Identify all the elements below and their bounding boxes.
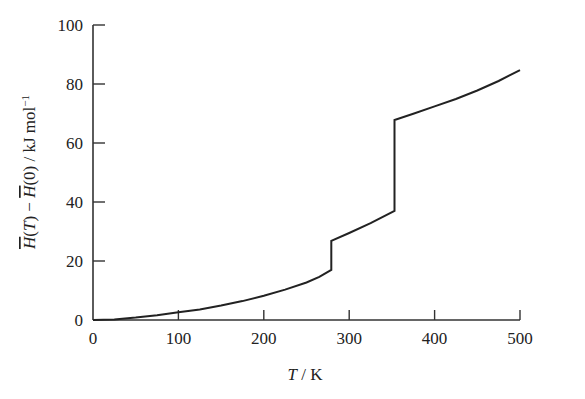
y-tick-label: 80: [66, 75, 83, 94]
x-tick-label: 0: [89, 329, 98, 348]
y-tick-label: 20: [66, 252, 83, 271]
svg-text:H(T) − H(0) / kJ mol−1: H(T) − H(0) / kJ mol−1: [19, 95, 39, 250]
y-tick-label: 60: [66, 134, 83, 153]
enthalpy-chart: 0100200300400500 020406080100 T / K H(T)…: [0, 0, 585, 399]
y-axis-ticks: 020406080100: [58, 16, 106, 330]
axes: [93, 25, 520, 320]
y-tick-label: 100: [58, 16, 84, 35]
x-tick-label: 500: [507, 329, 533, 348]
x-tick-label: 200: [251, 329, 277, 348]
y-tick-label: 40: [66, 193, 83, 212]
x-axis-label: T / K: [288, 365, 324, 384]
x-tick-label: 300: [336, 329, 362, 348]
y-axis-label: H(T) − H(0) / kJ mol−1: [19, 95, 39, 250]
enthalpy-curve: [93, 70, 520, 320]
x-tick-label: 100: [166, 329, 192, 348]
y-tick-label: 0: [75, 311, 84, 330]
x-tick-label: 400: [422, 329, 448, 348]
